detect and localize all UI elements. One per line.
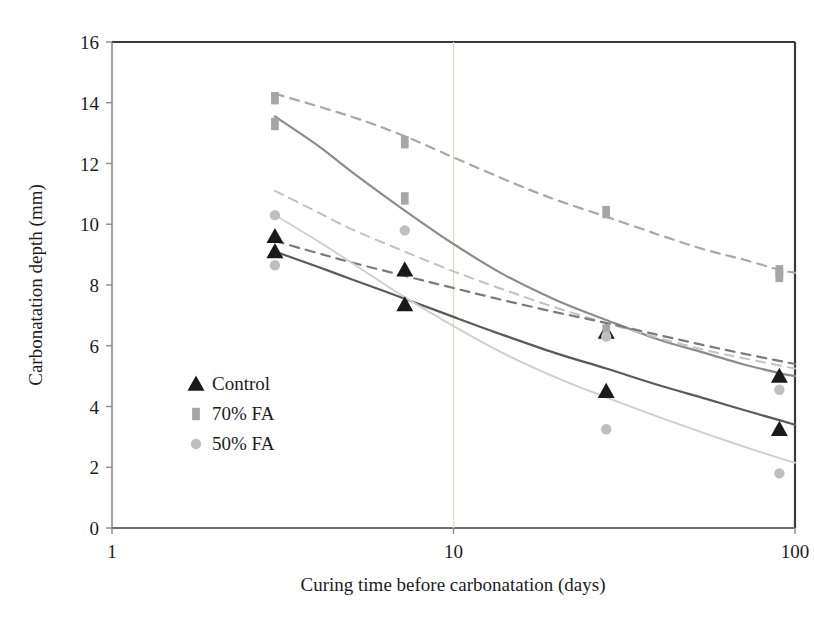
marker-circle xyxy=(774,385,784,395)
y-tick-label: 16 xyxy=(80,32,99,53)
y-tick-label: 8 xyxy=(90,275,100,296)
marker-square xyxy=(775,270,783,282)
marker-circle xyxy=(601,424,611,434)
x-axis-title: Curing time before carbonatation (days) xyxy=(301,574,606,596)
x-axis-ticks: 110100 xyxy=(107,528,809,562)
legend-item-control: Control xyxy=(188,373,271,394)
legend-label: 70% FA xyxy=(212,403,275,424)
marker-square xyxy=(271,118,279,130)
legend-label: 50% FA xyxy=(212,433,275,454)
marker-triangle xyxy=(396,296,413,311)
series-70-fa xyxy=(271,92,783,337)
y-tick-label: 12 xyxy=(80,154,99,175)
marker-triangle xyxy=(396,261,413,276)
legend-item-70-fa: 70% FA xyxy=(192,403,275,424)
marker-circle xyxy=(400,225,410,235)
chart-legend: Control70% FA50% FA xyxy=(188,373,275,454)
marker-circle xyxy=(191,439,201,449)
x-tick-label: 100 xyxy=(781,541,810,562)
legend-label: Control xyxy=(212,373,270,394)
data-marker-layer xyxy=(266,92,787,479)
legend-item-50-fa: 50% FA xyxy=(191,433,275,454)
trend-curve xyxy=(275,94,795,273)
chart-figure: 0246810121416 110100 Control70% FA50% FA… xyxy=(0,0,814,623)
marker-square xyxy=(401,192,409,204)
y-tick-label: 4 xyxy=(90,397,100,418)
y-axis-title: Carbonatation depth (mm) xyxy=(25,184,47,386)
y-tick-label: 2 xyxy=(90,457,100,478)
y-axis-ticks: 0246810121416 xyxy=(80,32,112,539)
marker-square xyxy=(271,92,279,104)
marker-triangle xyxy=(188,376,205,391)
y-tick-label: 6 xyxy=(90,336,100,357)
trend-curve-layer xyxy=(275,94,795,463)
marker-triangle xyxy=(266,243,283,258)
trend-curve xyxy=(275,116,795,376)
marker-circle xyxy=(270,210,280,220)
marker-triangle xyxy=(266,228,283,243)
marker-circle xyxy=(774,468,784,478)
carbonatation-depth-chart: 0246810121416 110100 Control70% FA50% FA… xyxy=(0,0,814,623)
trend-curve xyxy=(275,252,795,425)
y-tick-label: 14 xyxy=(80,93,100,114)
x-tick-label: 10 xyxy=(444,541,463,562)
marker-circle xyxy=(270,260,280,270)
marker-triangle xyxy=(598,383,615,398)
marker-circle xyxy=(601,331,611,341)
marker-square xyxy=(192,408,200,420)
y-tick-label: 0 xyxy=(90,518,100,539)
y-tick-label: 10 xyxy=(80,214,99,235)
marker-square xyxy=(401,136,409,148)
x-tick-label: 1 xyxy=(107,541,117,562)
marker-square xyxy=(602,206,610,218)
